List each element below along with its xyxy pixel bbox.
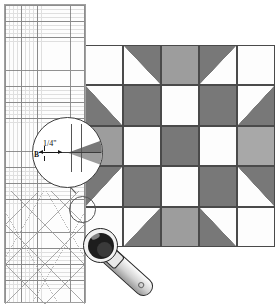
quilt-block <box>85 45 275 247</box>
piece-b-tick-bottom <box>44 156 45 161</box>
piece-b-tick-top <box>44 146 45 151</box>
quilt-cell-r5-c4 <box>199 207 237 247</box>
quilt-cell-r4-c4 <box>199 166 237 206</box>
magnifier-ruler-ticks <box>71 126 81 180</box>
cutter-blade-hub <box>97 242 112 257</box>
quilt-cell-r4-c5 <box>237 166 275 206</box>
cutter-blade-housing <box>83 228 118 263</box>
rotary-cutter <box>83 222 165 304</box>
diagram-canvas: 1/4" B <box>0 0 280 307</box>
quilt-cell-r3-c4 <box>199 126 237 166</box>
quilt-cell-r4-c3 <box>161 166 199 206</box>
quilt-cell-r1-c2 <box>123 45 161 85</box>
quilt-cell-r1-c1 <box>85 45 123 85</box>
half-square-triangle <box>124 46 160 84</box>
quilt-cell-r5-c3 <box>161 207 199 247</box>
quilt-cell-r1-c3 <box>161 45 199 85</box>
half-square-triangle <box>238 86 274 124</box>
quilt-cell-r1-c5 <box>237 45 275 85</box>
quilt-cell-r2-c1 <box>85 85 123 125</box>
quilt-cell-r2-c4 <box>199 85 237 125</box>
quilt-cell-r3-c3 <box>161 126 199 166</box>
quilt-cell-r3-c2 <box>123 126 161 166</box>
quilt-cell-r2-c5 <box>237 85 275 125</box>
callout-origin-circle <box>69 196 96 223</box>
quilt-cell-r1-c4 <box>199 45 237 85</box>
piece-b-label: B <box>34 150 39 159</box>
quilt-cell-r2-c2 <box>123 85 161 125</box>
cutter-handle-screw <box>137 281 145 289</box>
seam-allowance-dimension-arrow <box>39 152 62 153</box>
quilt-cell-r2-c3 <box>161 85 199 125</box>
magnifier-guideline-left <box>71 124 72 172</box>
quilt-cell-r3-c5 <box>237 126 275 166</box>
half-square-triangle <box>86 86 122 124</box>
quilt-cell-r4-c2 <box>123 166 161 206</box>
ruler-edge-top <box>5 5 85 6</box>
seam-allowance-label: 1/4" <box>43 139 57 148</box>
quilt-cell-r5-c5 <box>237 207 275 247</box>
half-square-triangle <box>200 208 236 246</box>
half-square-triangle <box>238 167 274 205</box>
half-square-triangle <box>200 46 236 84</box>
magnifier-guideline-right <box>81 124 82 172</box>
